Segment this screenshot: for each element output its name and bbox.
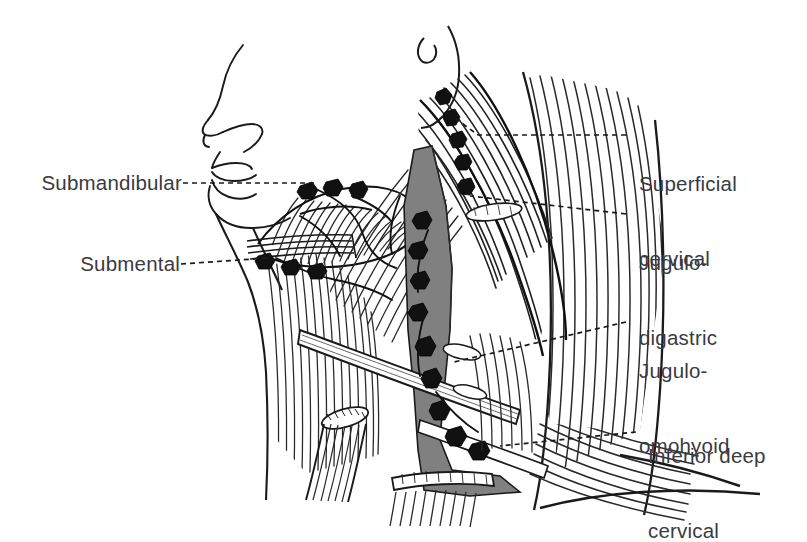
label-jugulo-digastric-line1: Jugulo-	[639, 250, 717, 275]
label-jugulo-omohyoid-line1: Jugulo-	[639, 358, 730, 383]
label-submental: Submental	[40, 251, 180, 276]
label-inferior-deep-cervical: Inferior deep cervical	[648, 393, 766, 542]
label-submandibular: Submandibular	[40, 170, 182, 195]
label-inferior-deep-cervical-line2: cervical	[648, 518, 766, 542]
label-superficial-cervical-line1: Superficial	[639, 171, 737, 196]
label-inferior-deep-cervical-line1: Inferior deep	[648, 443, 766, 468]
